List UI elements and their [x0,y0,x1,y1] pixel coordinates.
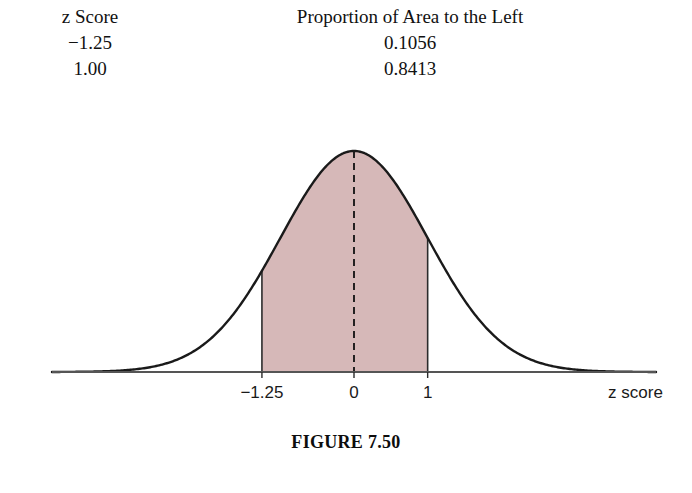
x-tick-label-one: 1 [423,383,432,403]
cell-proportion: 0.1056 [180,32,640,54]
table-row: −1.25 0.1056 [0,32,692,58]
column-header-proportion: Proportion of Area to the Left [180,6,640,28]
cell-proportion: 0.8413 [180,58,640,80]
figure-caption: FIGURE 7.50 [0,432,692,453]
table-row: 1.00 0.8413 [0,58,692,84]
x-tick-label-neg125: −1.25 [240,383,283,403]
x-tick-label-zero: 0 [349,383,358,403]
column-header-z-score: z Score [0,6,180,28]
x-axis-title: z score [608,383,663,403]
z-score-table: z Score Proportion of Area to the Left −… [0,6,692,84]
cell-z-score: 1.00 [0,58,180,80]
normal-distribution-figure: −1.25 0 1 z score [0,118,692,418]
normal-curve-chart [0,118,692,418]
table-header-row: z Score Proportion of Area to the Left [0,6,692,32]
cell-z-score: −1.25 [0,32,180,54]
